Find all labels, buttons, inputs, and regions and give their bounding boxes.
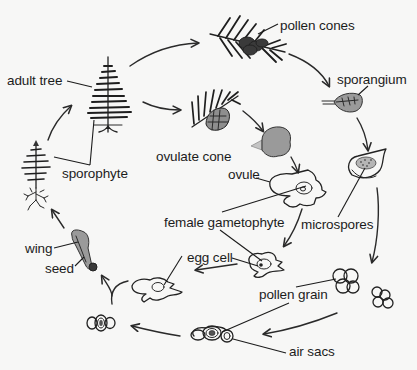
leader-air-sacs: [233, 339, 286, 353]
arrow-pollen-to-pollinated: [264, 313, 337, 334]
sporangium-drawing: [322, 93, 362, 112]
label-seed: seed: [45, 262, 74, 276]
cycle-arrows: [48, 43, 378, 336]
label-wing: wing: [25, 242, 52, 256]
pollinated-ovule-drawing: [191, 326, 233, 342]
leader-pollen-grain-bottom: [222, 303, 289, 332]
leader-egg-cell-left: [164, 256, 182, 285]
pine-life-cycle-diagram: pollen cones sporangium adult tree ovula…: [0, 0, 417, 370]
leader-adult-tree: [67, 81, 92, 87]
label-female-gametophyte: female gametophyte: [164, 216, 285, 230]
arrow-cone-to-scale: [243, 111, 263, 131]
label-microspores: microspores: [301, 218, 373, 232]
arrow-sporangium-to-microspores: [357, 118, 368, 150]
arrow-tree-to-ovulate-cone: [143, 102, 180, 110]
label-air-sacs: air sacs: [289, 345, 335, 359]
microsporangium-drawing: [349, 149, 386, 178]
seedling-drawing: [22, 140, 50, 210]
arrow-seed-to-seedling: [52, 210, 64, 228]
fertilized-gametophyte-drawing: [132, 278, 182, 302]
arrow-pollen-to-ovule-stage: [132, 326, 180, 336]
leader-pollen-cones: [258, 24, 278, 34]
ovulate-cone-drawing: [192, 90, 240, 130]
arrow-fertilized-to-seed: [102, 276, 112, 296]
ovulate-scale-drawing: [251, 127, 291, 157]
leader-female-gametophyte-top: [222, 186, 306, 212]
label-pollen-cones: pollen cones: [280, 19, 355, 33]
label-ovulate-cone: ovulate cone: [156, 150, 231, 164]
arrow-seedling-to-tree: [48, 106, 71, 140]
leader-sporophyte: [54, 120, 94, 165]
arrow-tree-to-pollen-cones: [130, 43, 198, 66]
arrow-ovule-to-egg: [284, 209, 302, 246]
label-egg-cell: egg cell: [187, 251, 233, 265]
arrow-scale-to-ovule: [291, 157, 298, 172]
label-adult-tree: adult tree: [7, 74, 62, 88]
label-pollen-grain: pollen grain: [259, 288, 328, 302]
leader-pollen-grain-top: [296, 279, 336, 287]
leader-wing: [54, 242, 78, 248]
label-sporophyte: sporophyte: [62, 167, 128, 181]
pollen-cones-drawing: [210, 16, 286, 62]
leader-sporangium: [358, 86, 368, 95]
germinated-pollen-drawing: [87, 315, 115, 331]
diagram-artwork: [0, 0, 417, 370]
label-sporangium: sporangium: [337, 73, 407, 87]
arrow-pollen-cones-to-sporangium: [289, 54, 329, 86]
microspore-tetrads: [333, 269, 393, 308]
leader-seed: [75, 257, 84, 266]
label-ovule: ovule: [228, 168, 260, 182]
arrow-fertilized-curve-a: [112, 281, 128, 304]
